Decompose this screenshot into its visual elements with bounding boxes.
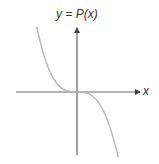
polynomial-graph: y = P(x) x: [0, 0, 159, 164]
curve-start-dot: [36, 27, 38, 29]
x-axis-label: x: [143, 84, 149, 98]
graph-title: y = P(x): [56, 7, 98, 21]
curve-end-dot: [117, 155, 119, 157]
graph-canvas: [0, 0, 159, 164]
